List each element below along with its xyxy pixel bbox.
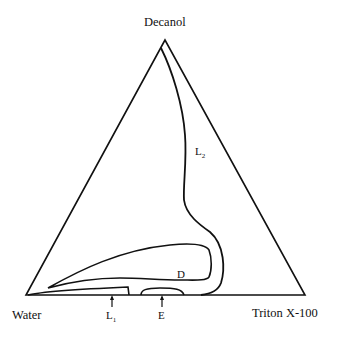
vertex-label-triton: Triton X-100 bbox=[252, 306, 318, 321]
l1-region-boundary bbox=[28, 287, 129, 295]
l1-sub: 1 bbox=[113, 316, 117, 324]
l1-main: L bbox=[106, 309, 113, 321]
e-region-boundary bbox=[141, 288, 184, 295]
e-arrow-icon bbox=[160, 295, 164, 307]
l2-boundary bbox=[161, 48, 223, 295]
l2-sub: 2 bbox=[202, 152, 206, 160]
region-label-l2: L2 bbox=[195, 145, 205, 160]
ternary-diagram bbox=[0, 0, 346, 339]
l1-arrow-icon bbox=[110, 295, 114, 307]
l2-main: L bbox=[195, 145, 202, 157]
d-region-boundary bbox=[48, 244, 211, 288]
vertex-label-decanol: Decanol bbox=[144, 15, 186, 30]
triangle-outline bbox=[26, 40, 305, 295]
region-label-d: D bbox=[177, 268, 185, 280]
region-label-l1: L1 bbox=[106, 309, 116, 324]
vertex-label-water: Water bbox=[12, 308, 42, 323]
region-label-e: E bbox=[158, 309, 165, 321]
